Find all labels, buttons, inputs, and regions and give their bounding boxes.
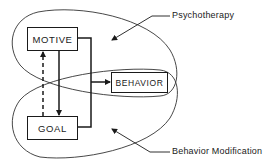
behavior-label: BEHAVIOR xyxy=(115,78,163,88)
behavior-node: BEHAVIOR xyxy=(111,72,168,93)
goal-label: GOAL xyxy=(38,123,67,134)
psychotherapy-label: Psychotherapy xyxy=(172,10,234,20)
motive-label: MOTIVE xyxy=(32,34,72,45)
motive-goal-bus xyxy=(78,38,91,127)
psychotherapy-leader xyxy=(112,16,170,40)
goal-node: GOAL xyxy=(27,116,78,140)
behavior-modification-label: Behavior Modification xyxy=(172,146,262,156)
motive-node: MOTIVE xyxy=(27,27,78,51)
